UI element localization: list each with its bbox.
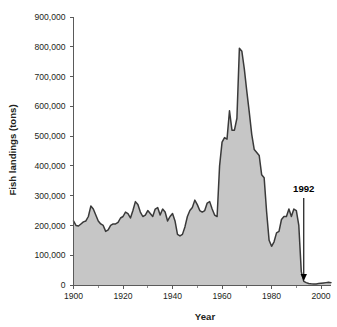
y-axis-tick-label-group: 0100,000200,000300,000400,000500,000600,…	[34, 12, 65, 290]
y-axis-tick-label: 100,000	[34, 250, 65, 260]
y-axis-tick-mark-group	[70, 17, 74, 285]
x-axis-tick-label: 1940	[163, 291, 182, 301]
y-axis-tick-label: 700,000	[34, 72, 65, 82]
y-axis-tick-label: 800,000	[34, 42, 65, 52]
x-axis-tick-mark-group	[74, 285, 322, 289]
chart-canvas: 0100,000200,000300,000400,000500,000600,…	[0, 0, 337, 327]
y-axis-tick-label: 400,000	[34, 161, 65, 171]
y-axis-tick-label: 300,000	[34, 191, 65, 201]
y-axis-tick-label: 200,000	[34, 221, 65, 231]
x-axis-tick-label: 1900	[64, 291, 83, 301]
x-axis-tick-label-group: 190019201940196019802000	[64, 291, 331, 301]
chart-figure: 0100,000200,000300,000400,000500,000600,…	[0, 0, 337, 327]
x-axis-tick-label: 1980	[262, 291, 281, 301]
y-axis-tick-label: 600,000	[34, 101, 65, 111]
x-axis-title: Year	[195, 311, 216, 322]
y-axis-tick-label: 900,000	[34, 12, 65, 22]
x-axis-tick-label: 1960	[212, 291, 231, 301]
annotation-label-1992: 1992	[293, 183, 314, 194]
y-axis-tick-label: 500,000	[34, 131, 65, 141]
y-axis-tick-label: 0	[61, 280, 66, 290]
x-axis-tick-label: 1920	[113, 291, 132, 301]
x-axis-tick-label: 2000	[312, 291, 331, 301]
fish-landings-area	[74, 48, 332, 285]
y-axis-title: Fish landings (tons)	[7, 104, 18, 195]
